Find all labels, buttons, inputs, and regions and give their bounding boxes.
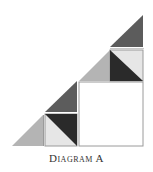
diagram-caption: Diagram A — [0, 152, 153, 164]
big-square — [79, 82, 143, 146]
left-triangle — [12, 115, 43, 146]
medium-square-left-triangle — [79, 50, 110, 81]
top-triangle — [110, 15, 143, 47]
mid-triangle — [45, 81, 77, 112]
diagram-figure — [0, 0, 153, 150]
